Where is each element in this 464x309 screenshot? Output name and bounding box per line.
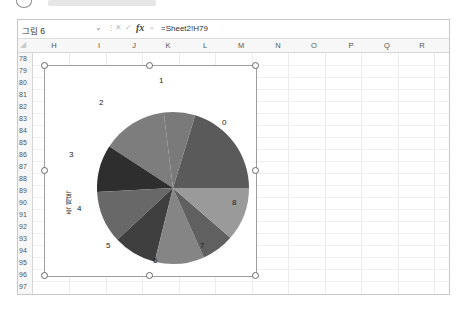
column-header[interactable]: N	[263, 41, 293, 50]
column-header[interactable]: I	[84, 41, 114, 50]
slice-label: 7	[200, 241, 204, 250]
row-headers: 78 79 80 81 82 83 84 85 86 87 88 89 90 9…	[18, 53, 33, 294]
row-header[interactable]: 82	[19, 103, 32, 110]
row-header[interactable]: 83	[19, 115, 32, 122]
column-header[interactable]: R	[407, 41, 437, 50]
separator-icon: ⋮	[107, 23, 115, 32]
resize-handle[interactable]	[252, 62, 259, 69]
name-box[interactable]: 그림 6	[22, 24, 92, 36]
column-header[interactable]: H	[39, 41, 69, 50]
resize-handle[interactable]	[252, 272, 259, 279]
spreadsheet: 그림 6 ⌄ ⋮ ✕ ✓ fx ⌄ =Sheet2!H79 ◢ H I J K …	[17, 19, 450, 295]
top-bar	[0, 0, 464, 18]
row-header[interactable]: 89	[19, 187, 32, 194]
resize-handle[interactable]	[252, 167, 259, 174]
row-header[interactable]: 97	[19, 283, 32, 290]
resize-handle[interactable]	[146, 272, 153, 279]
column-header[interactable]: Q	[372, 41, 402, 50]
row-header[interactable]: 84	[19, 127, 32, 134]
row-header[interactable]: 92	[19, 223, 32, 230]
column-header[interactable]: J	[119, 41, 149, 50]
slice-label: 4	[77, 204, 81, 213]
cancel-icon[interactable]: ✕	[115, 23, 122, 32]
column-headers: ◢ H I J K L M N O P Q R	[18, 39, 449, 53]
row-header[interactable]: 81	[19, 91, 32, 98]
pie-plot	[45, 66, 256, 276]
resize-handle[interactable]	[146, 62, 153, 69]
slice-label: 0	[222, 118, 226, 127]
column-header[interactable]: L	[190, 41, 220, 50]
circle-icon	[16, 0, 32, 8]
column-header[interactable]: P	[336, 41, 366, 50]
row-header[interactable]: 95	[19, 259, 32, 266]
formula-input[interactable]: =Sheet2!H79	[161, 24, 208, 33]
pie-chart[interactable]: 축 제목 0 1 2 3 4 5 6 7 8	[44, 65, 257, 277]
row-header[interactable]: 80	[19, 79, 32, 86]
column-header[interactable]: M	[226, 41, 256, 50]
row-header[interactable]: 93	[19, 235, 32, 242]
slice-label: 2	[99, 98, 103, 107]
slice-label: 1	[159, 76, 163, 85]
row-header[interactable]: 90	[19, 199, 32, 206]
row-header[interactable]: 88	[19, 175, 32, 182]
row-header[interactable]: 86	[19, 151, 32, 158]
formula-bar: 그림 6 ⌄ ⋮ ✕ ✓ fx ⌄ =Sheet2!H79	[18, 20, 449, 39]
column-header[interactable]: O	[299, 41, 329, 50]
slice-label: 6	[153, 256, 157, 265]
blurred-title	[48, 0, 156, 6]
enter-icon[interactable]: ✓	[125, 23, 132, 32]
resize-handle[interactable]	[41, 62, 48, 69]
row-header[interactable]: 87	[19, 163, 32, 170]
insert-function-icon[interactable]: fx	[136, 22, 144, 33]
row-header[interactable]: 85	[19, 139, 32, 146]
row-header[interactable]: 91	[19, 211, 32, 218]
select-all-corner[interactable]: ◢	[20, 40, 34, 51]
slice-label: 3	[69, 150, 73, 159]
resize-handle[interactable]	[41, 167, 48, 174]
row-header[interactable]: 79	[19, 67, 32, 74]
row-header[interactable]: 94	[19, 247, 32, 254]
row-header[interactable]: 78	[19, 55, 32, 62]
row-header[interactable]: 96	[19, 271, 32, 278]
resize-handle[interactable]	[41, 272, 48, 279]
chevron-down-icon[interactable]: ⌄	[149, 23, 155, 31]
axis-title[interactable]: 축 제목	[65, 186, 76, 220]
chevron-down-icon[interactable]: ⌄	[95, 23, 102, 32]
column-header[interactable]: K	[153, 41, 183, 50]
slice-label: 8	[232, 198, 236, 207]
slice-label: 5	[106, 241, 110, 250]
